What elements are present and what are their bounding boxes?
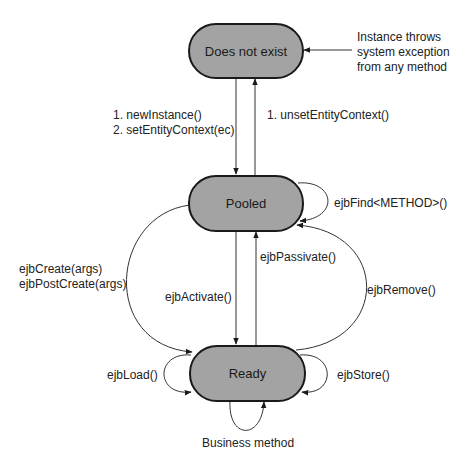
label-line: Instance throws: [357, 30, 450, 45]
label-unset-entity-context: 1. unsetEntityContext(): [267, 108, 389, 123]
edge-business-method: [230, 401, 264, 430]
state-pooled: Pooled: [188, 175, 304, 232]
label-line: system exception: [357, 45, 450, 60]
label-new-instance: 1. newInstance() 2. setEntityContext(ec): [113, 108, 234, 138]
label-business-method: Business method: [202, 436, 294, 451]
edge-ejb-load: [164, 355, 191, 392]
label-line: 2. setEntityContext(ec): [113, 123, 234, 138]
label-line: ejbCreate(args): [19, 262, 126, 277]
edge-ejb-create: [126, 205, 192, 352]
state-label: Does not exist: [205, 44, 287, 59]
label-ejb-passivate: ejbPassivate(): [260, 250, 336, 265]
label-ejb-find: ejbFind<METHOD>(): [334, 196, 447, 211]
edge-ejb-remove: [296, 225, 367, 350]
label-ejb-activate: ejbActivate(): [165, 290, 232, 305]
label-line: from any method: [357, 60, 450, 75]
label-system-exception: Instance throws system exception from an…: [357, 30, 450, 75]
label-line: ejbPostCreate(args): [19, 277, 126, 292]
label-line: 1. newInstance(): [113, 108, 234, 123]
state-label: Pooled: [226, 196, 266, 211]
state-label: Ready: [229, 366, 267, 381]
state-ready: Ready: [189, 345, 306, 402]
label-ejb-remove: ejbRemove(): [367, 283, 436, 298]
label-ejb-create: ejbCreate(args) ejbPostCreate(args): [19, 262, 126, 292]
label-ejb-load: ejbLoad(): [107, 368, 158, 383]
label-ejb-store: ejbStore(): [337, 368, 390, 383]
state-does-not-exist: Does not exist: [188, 23, 304, 79]
